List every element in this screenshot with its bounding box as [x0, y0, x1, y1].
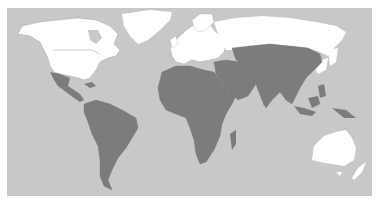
- world-map: [0, 0, 379, 204]
